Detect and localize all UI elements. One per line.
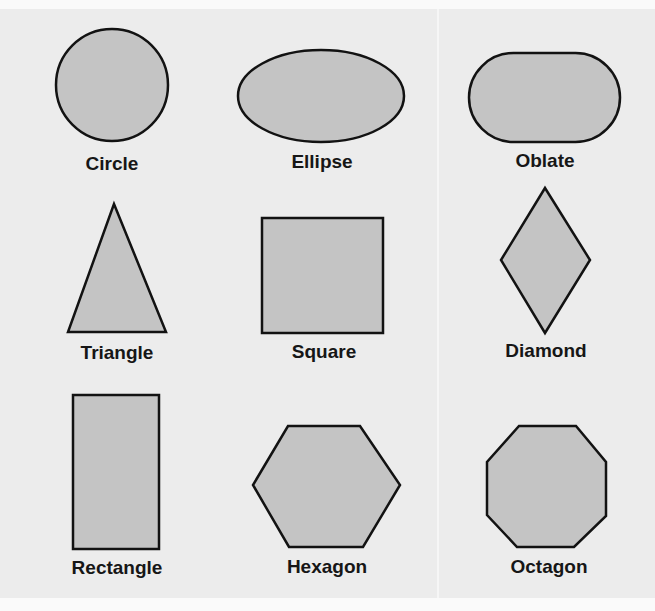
hexagon-shape — [253, 426, 400, 547]
hexagon-label: Hexagon — [287, 557, 367, 576]
circle-shape — [56, 29, 168, 141]
ellipse-shape — [238, 50, 404, 142]
circle-label: Circle — [86, 154, 139, 173]
oblate-label: Oblate — [515, 151, 574, 170]
octagon-shape — [487, 426, 606, 547]
rectangle-shape — [73, 395, 159, 549]
square-label: Square — [292, 342, 356, 361]
triangle-label: Triangle — [81, 343, 154, 362]
shapes-canvas — [0, 0, 655, 611]
diamond-shape — [501, 188, 590, 333]
diamond-label: Diamond — [505, 341, 586, 360]
square-shape — [262, 218, 383, 333]
triangle-shape — [68, 204, 166, 332]
oblate-shape — [469, 53, 620, 142]
ellipse-label: Ellipse — [291, 152, 352, 171]
octagon-label: Octagon — [510, 557, 587, 576]
rectangle-label: Rectangle — [72, 558, 163, 577]
